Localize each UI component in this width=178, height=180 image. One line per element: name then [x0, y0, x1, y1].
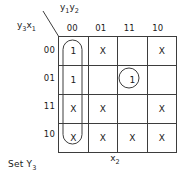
cell-r0-c2 [118, 37, 148, 66]
cell-r0-c0: 1 [59, 37, 89, 66]
caption-text: Set Y [8, 159, 32, 169]
table-row: 1 1 [59, 66, 177, 95]
cell-r3-c0: X [59, 124, 89, 153]
row-header-1: 01 [36, 64, 55, 92]
cell-r1-c3 [147, 66, 177, 95]
cell-r2-c3: X [147, 95, 177, 124]
row-header-3: 10 [36, 120, 55, 148]
cell-r3-c3: X [147, 124, 177, 153]
figure-caption: Set Y3 [8, 160, 36, 171]
cell-r2-c0: X [59, 95, 89, 124]
column-header-row: 00 01 11 10 [58, 22, 172, 34]
row-variable-x1-subscript: 1 [32, 25, 36, 33]
kmap-grid-table: 1 X X 1 1 X X X X [58, 36, 177, 153]
cell-r1-c0: 1 [59, 66, 89, 95]
table-row: X X X [59, 95, 177, 124]
row-header-0: 00 [36, 36, 55, 64]
cell-r0-c1: X [88, 37, 118, 66]
caption-subscript: 3 [32, 164, 36, 172]
cell-r3-c2: X [118, 124, 148, 153]
table-row: X X X X [59, 124, 177, 153]
row-variable-label: y3x1 [17, 21, 36, 32]
row-header-2: 11 [36, 92, 55, 120]
karnaugh-map-figure: y1y2 y3x1 00 01 11 10 00 01 11 10 1 X X [0, 0, 178, 180]
cell-r0-c3: X [147, 37, 177, 66]
cell-r3-c1: X [88, 124, 118, 153]
column-variable-y2-subscript: 2 [75, 7, 79, 15]
bottom-variable-x-subscript: 2 [116, 158, 120, 166]
column-variable-label: y1y2 [60, 3, 79, 14]
bottom-variable-label: x2 [58, 154, 172, 165]
kmap-grid: 1 X X 1 1 X X X X [58, 36, 172, 148]
column-header-2: 11 [115, 22, 144, 34]
column-header-3: 10 [144, 22, 173, 34]
table-row: 1 X X [59, 37, 177, 66]
cell-r1-c2: 1 [118, 66, 148, 95]
column-header-0: 00 [58, 22, 87, 34]
column-header-1: 01 [87, 22, 116, 34]
row-header-column: 00 01 11 10 [36, 36, 55, 148]
cell-r1-c1 [88, 66, 118, 95]
cell-r2-c2 [118, 95, 148, 124]
cell-r2-c1: X [88, 95, 118, 124]
